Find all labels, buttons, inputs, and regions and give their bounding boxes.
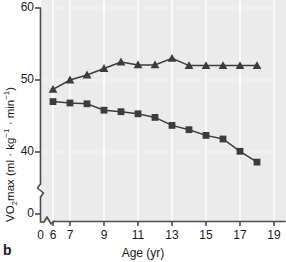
data-point-girls-age8 xyxy=(84,100,91,107)
data-point-girls-age6 xyxy=(50,98,57,105)
data-point-girls-age11 xyxy=(135,110,142,117)
vo2max-vs-age-line-chart xyxy=(0,0,286,262)
y-axis-ticks xyxy=(35,8,41,214)
x-tick-label-7: 7 xyxy=(58,228,82,242)
data-point-girls-age14 xyxy=(186,126,193,133)
y-tick-label-50: 50 xyxy=(8,72,34,86)
plot-background xyxy=(41,0,286,222)
data-point-girls-age10 xyxy=(118,108,125,115)
x-tick-label-13: 13 xyxy=(160,228,184,242)
data-point-girls-age15 xyxy=(203,132,210,139)
y-axis-title: VO2max (ml · kg−1 · min−1) xyxy=(2,87,19,222)
x-tick-label-15: 15 xyxy=(194,228,218,242)
data-point-girls-age12 xyxy=(152,114,159,121)
panel-label: b xyxy=(3,243,12,257)
x-tick-label-9: 9 xyxy=(92,228,116,242)
x-axis-title: Age (yr) xyxy=(0,246,286,260)
data-point-girls-age17 xyxy=(237,148,244,155)
data-point-girls-age7 xyxy=(67,100,74,107)
x-tick-label-11: 11 xyxy=(126,228,150,242)
data-point-girls-age16 xyxy=(220,136,227,143)
data-point-girls-age18 xyxy=(254,159,261,166)
x-tick-label-17: 17 xyxy=(228,228,252,242)
data-point-girls-age9 xyxy=(101,107,108,114)
y-tick-label-60: 60 xyxy=(8,0,34,14)
chart-figure: 0405060 06791113151719 VO2max (ml · kg−1… xyxy=(0,0,286,262)
data-point-girls-age13 xyxy=(169,122,176,129)
x-tick-label-19: 19 xyxy=(262,228,286,242)
